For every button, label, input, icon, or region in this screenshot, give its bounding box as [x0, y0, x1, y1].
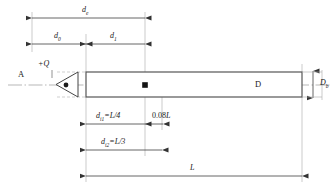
label-dim-L: L: [190, 164, 194, 172]
label-dim-de: de: [82, 6, 88, 14]
label-dim-d0: d0: [54, 32, 61, 40]
drawing-canvas: [0, 0, 333, 190]
label-dim-di1: di1=L/4: [96, 112, 120, 120]
label-dim-di2: di2=L/3: [101, 138, 125, 146]
bar-body-rectangle: [86, 72, 302, 97]
engineering-drawing-figure: de d0 d1 A +Q D Db di1=L/4 0.08L di2=L/3…: [0, 0, 333, 190]
label-dim-d1: d1: [110, 32, 117, 40]
dimension-line-Db: [302, 71, 322, 98]
conical-charge-shape: [56, 72, 78, 97]
label-bar-height-db: Db: [320, 79, 329, 87]
label-point-a: A: [18, 70, 24, 79]
label-dim-offset: 0.08L: [152, 112, 170, 120]
label-charge-q: +Q: [38, 60, 49, 68]
bar-axis-point-marker: [142, 82, 148, 88]
label-bar-diameter-inline: D: [253, 80, 263, 89]
charge-point-marker: [64, 83, 69, 88]
